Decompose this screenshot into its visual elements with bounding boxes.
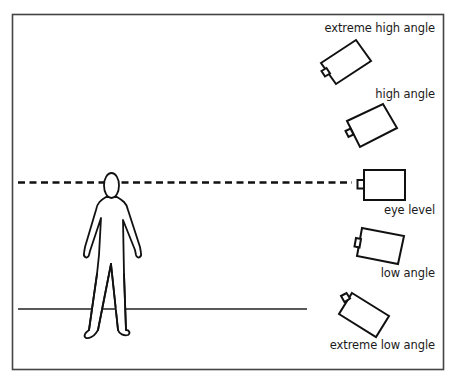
camera-high-icon: [346, 104, 398, 147]
standing-figure-icon: [84, 173, 141, 338]
label-extreme-low-angle: extreme low angle: [330, 338, 435, 352]
camera-eye-level-icon: [358, 170, 406, 200]
label-high-angle: high angle: [375, 87, 435, 101]
camera-extreme-low-icon: [339, 293, 389, 337]
camera-extreme-high-icon: [321, 40, 371, 84]
camera-low-icon: [355, 228, 405, 264]
label-eye-level: eye level: [384, 203, 435, 217]
label-low-angle: low angle: [381, 266, 435, 280]
label-extreme-high-angle: extreme high angle: [324, 21, 435, 35]
